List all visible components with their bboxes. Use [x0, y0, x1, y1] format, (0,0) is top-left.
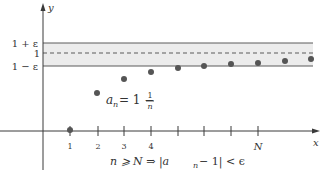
- point-7: [228, 61, 234, 67]
- point-9: [282, 58, 288, 64]
- point-1: [67, 127, 73, 133]
- y-axis-arrow-icon: [41, 3, 46, 11]
- point-2: [94, 90, 100, 96]
- x-axis-label: x: [313, 137, 319, 148]
- svg-text:n: n: [147, 102, 152, 111]
- x-tick-label-1: 1: [67, 142, 72, 151]
- sequence-formula: a n = 1 − 1 n: [106, 91, 154, 111]
- x-tick-label-3: 3: [121, 142, 126, 151]
- point-6: [201, 63, 207, 69]
- svg-text:1: 1: [147, 91, 152, 100]
- point-10: [308, 56, 314, 62]
- point-5: [175, 65, 181, 71]
- y-label-one: 1: [34, 48, 40, 59]
- convergence-diagram: 1 2 3 4 N y x 1 + ε 1 1 − ε a n = 1 − 1 …: [0, 0, 323, 183]
- x-axis-arrow-icon: [312, 129, 320, 134]
- x-tick-label-2: 2: [95, 142, 100, 151]
- y-label-lower: 1 − ε: [12, 61, 38, 72]
- sequence-points: [67, 56, 314, 133]
- x-tick-label-N: N: [253, 141, 264, 152]
- x-tick-label-4: 4: [148, 142, 153, 151]
- svg-text:n: n: [193, 161, 198, 170]
- point-8: [255, 60, 261, 66]
- epsilon-band: [43, 43, 313, 66]
- svg-text:n: n: [113, 100, 118, 109]
- convergence-condition: n ⩾ N ⇒ |a n − 1| < ϵ: [110, 155, 245, 170]
- svg-text:− 1| < ϵ: − 1| < ϵ: [199, 155, 245, 169]
- svg-text:n ⩾ N ⇒ |a: n ⩾ N ⇒ |a: [110, 155, 169, 169]
- y-axis-label: y: [47, 2, 54, 13]
- point-4: [148, 69, 154, 75]
- point-3: [121, 76, 127, 82]
